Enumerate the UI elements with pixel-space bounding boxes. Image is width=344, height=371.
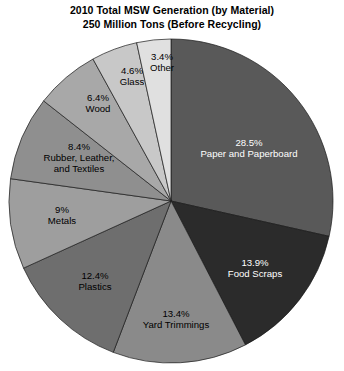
- pie-chart-figure: 2010 Total MSW Generation (by Material) …: [0, 0, 344, 371]
- pie-chart-plot-area: 28.5%Paper and Paperboard13.9%Food Scrap…: [0, 0, 344, 371]
- pie-slice-group: [9, 39, 333, 363]
- pie-chart-svg: [0, 0, 344, 371]
